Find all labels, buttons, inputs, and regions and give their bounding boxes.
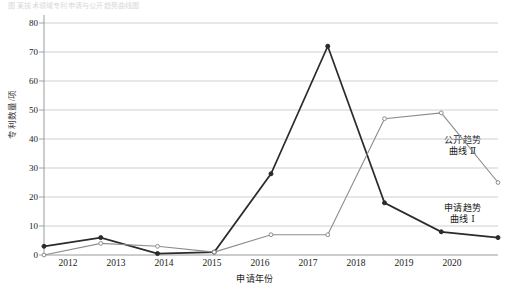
gridlines bbox=[39, 23, 498, 255]
plot-area bbox=[0, 0, 510, 299]
series-layer bbox=[42, 44, 500, 257]
patent-trend-chart: 图 某技术领域专利申请与公开趋势曲线图 专利数量/项 0 10 20 30 40… bbox=[0, 0, 510, 299]
